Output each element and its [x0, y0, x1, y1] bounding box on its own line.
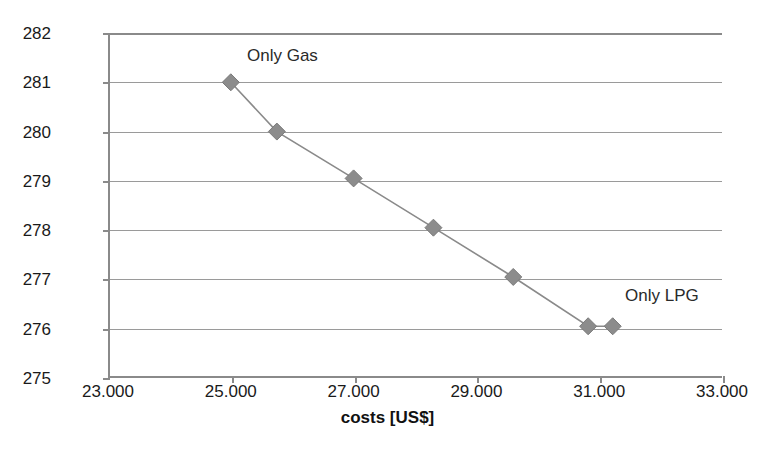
y-tick-label: 280 [0, 123, 51, 140]
y-tick-label: 279 [0, 172, 51, 189]
y-axis-tick [103, 230, 110, 232]
y-tick-label: 277 [0, 271, 51, 288]
y-axis-tick [103, 132, 110, 134]
y-tick-label: 282 [0, 25, 51, 42]
gridline-horizontal [110, 82, 722, 83]
gridline-horizontal [110, 329, 722, 330]
x-tick-label: 27.000 [299, 383, 409, 400]
y-axis-tick [103, 329, 110, 331]
x-tick-label: 29.000 [421, 383, 531, 400]
y-axis-tick [103, 33, 110, 35]
cost-emissions-chart: emissions [tCO2] costs [US$] 28228128027… [0, 0, 775, 465]
y-tick-label: 278 [0, 222, 51, 239]
annotation-only-lpg: Only LPG [625, 287, 699, 304]
y-axis-tick [103, 279, 110, 281]
plot-area [108, 33, 722, 378]
y-axis-tick [103, 82, 110, 84]
y-axis-tick [103, 378, 110, 380]
annotation-only-gas: Only Gas [247, 47, 318, 64]
x-tick-label: 23.000 [53, 383, 163, 400]
gridline-horizontal [110, 230, 722, 231]
y-tick-label: 276 [0, 320, 51, 337]
y-axis-tick [103, 181, 110, 183]
x-tick-label: 33.000 [667, 383, 775, 400]
gridline-horizontal [110, 132, 722, 133]
x-tick-label: 31.000 [544, 383, 654, 400]
y-tick-label: 275 [0, 370, 51, 387]
x-tick-label: 25.000 [176, 383, 286, 400]
x-axis-title: costs [US$] [0, 408, 775, 428]
gridline-horizontal [110, 279, 722, 280]
y-tick-label: 281 [0, 74, 51, 91]
gridline-horizontal [110, 181, 722, 182]
gridline-horizontal [110, 33, 722, 35]
